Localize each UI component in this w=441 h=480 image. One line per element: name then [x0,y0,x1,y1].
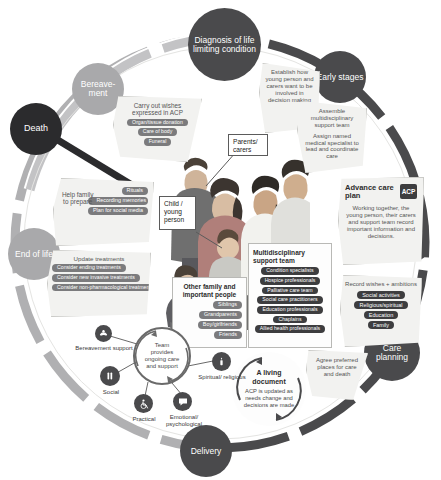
panel-advance-care-plan: Advance care plan ACP Working together, … [338,177,424,265]
acp-badge: ACP [400,184,417,199]
spoke-label-bereavement-support: Bereavement support [72,345,136,352]
people-icon [104,370,116,382]
spoke-icon-practical [134,394,153,413]
living-document-cycle-arrows [228,348,310,430]
panel-establish-involvement-title: Establish how young person and carers wa… [264,69,315,103]
pill-item: Consider non-pharmacological treatments [52,284,153,292]
panel-assemble-team-subtitle: Assign named medical specialist to lead … [303,133,361,161]
stage-node-diagnosis[interactable]: Diagnosis of life limiting condition [188,8,261,81]
panel-help-family-prepare-title: Help family to prepare [59,185,96,206]
panel-advance-care-plan-body: Working together, the young person, thei… [345,205,417,241]
spoke-icon-emotional [173,392,192,411]
pill-item: Consider new invasive treatments [52,274,140,282]
pill-item: Condition specialists [261,267,318,275]
spoke-icon-social [100,366,120,386]
hands-holding-icon [98,328,109,339]
panel-carry-out-wishes: Carry out wishes expressed in ACP Organ/… [113,96,202,162]
hub-cycle-arrows [128,322,196,390]
panel-carry-out-wishes-pills: Organ/tissue donationCare of bodyFuneral [119,119,196,146]
panel-update-treatments: Update treatments Consider ending treatm… [47,250,151,317]
stage-node-early-stages[interactable]: Early stages [314,51,366,103]
panel-record-wishes: Record wishes + ambitions Social activit… [340,275,422,347]
panel-record-wishes-title: Record wishes + ambitions [345,281,417,288]
panel-update-treatments-pills: Consider ending treatmentsConsider new i… [52,264,146,291]
pill-item: Consider ending treatments [52,264,126,272]
candle-icon [216,356,227,367]
stage-node-bereavement[interactable]: Bereave- ment [72,63,124,115]
stage-node-delivery[interactable]: Delivery [180,425,232,477]
panel-multidisciplinary-support-team-pills: Condition specialistsHospice professiona… [253,267,327,333]
pill-item: Funeral [144,138,172,146]
pill-item: Palliative care team [262,287,317,295]
pill-item: Hospice professionals [260,277,321,285]
panel-update-treatments-title: Update treatments [52,255,146,262]
callout-parents-carers: Parents/ carers [228,134,268,156]
stage-node-delivery-label: Delivery [191,447,222,456]
pill-item: Social activities [357,291,405,299]
spoke-label-social: Social [88,389,134,396]
spoke-label-emotional: Emotional/ psychological [156,414,212,427]
panel-help-family-prepare: Help family to prepare RitualsRecording … [53,178,154,246]
stage-node-care-planning-label: Care planning [366,344,418,362]
pill-item: Grandparents [199,311,242,319]
stage-node-end-of-life-label: End of life [15,250,53,259]
pill-item: Social care practitioners [257,296,322,304]
panel-assemble-team-title: Assemble multidisciplinary support team [303,108,361,129]
callout-child-young-person-label: Child / young person [164,200,184,223]
care-pathway-infographic: Diagnosis of life limiting condition Ear… [0,0,441,480]
spoke-label-spiritual: Spiritual/ religious [198,374,246,381]
pill-item: Education professionals [257,306,322,314]
panel-agree-preferred-places-title: Agree preferred places for care and deat… [312,357,362,378]
pill-item: Friends [214,331,242,339]
callout-child-young-person: Child / young person [159,196,196,230]
pill-item: Education [364,311,398,319]
stage-node-death-label: Death [24,124,48,133]
spoke-icon-bereavement-support [95,325,112,342]
panel-carry-out-wishes-title: Carry out wishes expressed in ACP [119,102,196,117]
pill-item: Religious/spiritual [354,301,407,309]
stage-node-death[interactable]: Death [10,103,62,155]
panel-other-family-title: Other family and important people [177,283,242,298]
pill-item: Care of body [138,128,178,136]
wheelchair-icon [138,398,150,410]
panel-advance-care-plan-title: Advance care plan [345,184,396,201]
spoke-icon-spiritual [212,352,231,371]
pill-item: Siblings [213,301,242,309]
panel-multidisciplinary-support-team-title: Multidisciplinary support team [253,249,327,264]
stage-node-diagnosis-label: Diagnosis of life limiting condition [190,36,259,54]
pill-item: Allied health professionals [255,325,325,333]
pill-item: Family [368,321,394,329]
pill-item: Chaplains [273,316,306,324]
panel-multidisciplinary-support-team: Multidisciplinary support team Condition… [248,243,332,348]
pill-item: Plan for social media [88,207,148,215]
panel-assemble-team: Assemble multidisciplinary support team … [297,101,367,173]
stage-node-early-stages-label: Early stages [317,73,364,82]
callout-parents-carers-label: Parents/ carers [233,138,258,153]
panel-record-wishes-pills: Social activitiesReligious/spiritualEduc… [345,291,417,329]
stage-node-bereavement-label: Bereave- ment [74,80,122,98]
pill-item: Boy/girlfriends [198,321,242,329]
pill-item: Rituals [122,187,148,195]
pill-item: Organ/tissue donation [127,119,188,127]
speech-bubble-icon [177,396,189,408]
pill-item: Recording memories [88,197,148,205]
